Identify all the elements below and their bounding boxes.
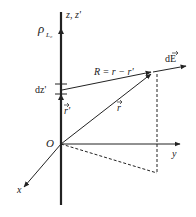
charge-arrow-icon xyxy=(58,28,64,34)
dE-label: dE xyxy=(165,53,176,64)
r-vector xyxy=(61,74,151,144)
y-axis-label: y xyxy=(171,148,177,159)
charge-density-label: ρ xyxy=(37,21,44,36)
dz-label: dz' xyxy=(35,84,46,95)
charge-density-subscript: L₀ xyxy=(45,31,53,39)
origin-label: O xyxy=(46,137,54,149)
z-axis-label: z, z' xyxy=(65,9,82,20)
dE-vector xyxy=(153,66,186,72)
R-equation-label: R = r − r' xyxy=(93,66,134,77)
projection-xy xyxy=(61,144,157,173)
x-axis xyxy=(24,144,61,187)
x-axis-label: x xyxy=(16,184,22,195)
r-prime-arrow-icon xyxy=(58,94,64,100)
line-charge-diagram: z, z' ρ L₀ dz' R = r − r' dE r' r O x y xyxy=(0,0,196,217)
